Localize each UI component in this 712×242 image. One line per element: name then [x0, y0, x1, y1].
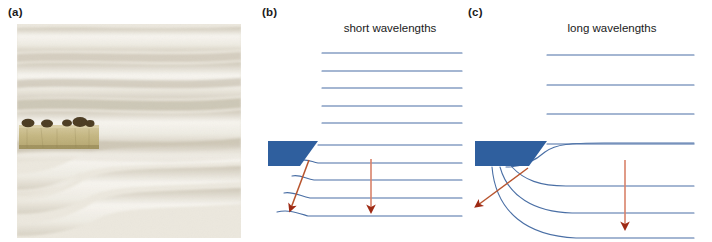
panel-b-label: (b)	[262, 6, 277, 18]
figure-root: (a)	[0, 0, 712, 242]
photo-a-graphic	[17, 24, 241, 238]
panel-c-label: (c)	[468, 6, 483, 18]
panel-b-incident-crests	[322, 53, 462, 123]
panel-b-title: short wavelengths	[310, 22, 470, 34]
panel-c-diffracted-direction-arrow	[478, 168, 528, 205]
wave-tank-photo	[17, 24, 241, 238]
panel-a-label: (a)	[8, 6, 23, 18]
panel-c-headland	[475, 141, 547, 166]
panel-b-diffracted-direction-arrow	[291, 160, 309, 208]
panel-b-lee-crests	[277, 145, 462, 216]
panel-b-headland	[268, 141, 318, 166]
panel-c-incident-crests	[547, 55, 694, 114]
panel-a-photograph	[17, 24, 241, 238]
panel-c-title: long wavelengths	[532, 22, 692, 34]
panel-c-lee-crests	[492, 143, 694, 238]
